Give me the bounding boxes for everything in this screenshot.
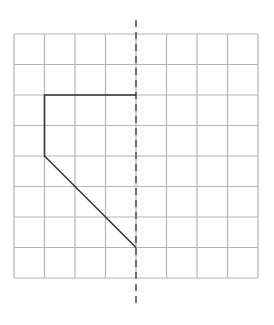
half-shape-outline xyxy=(45,95,137,248)
symmetry-diagram xyxy=(0,0,274,325)
